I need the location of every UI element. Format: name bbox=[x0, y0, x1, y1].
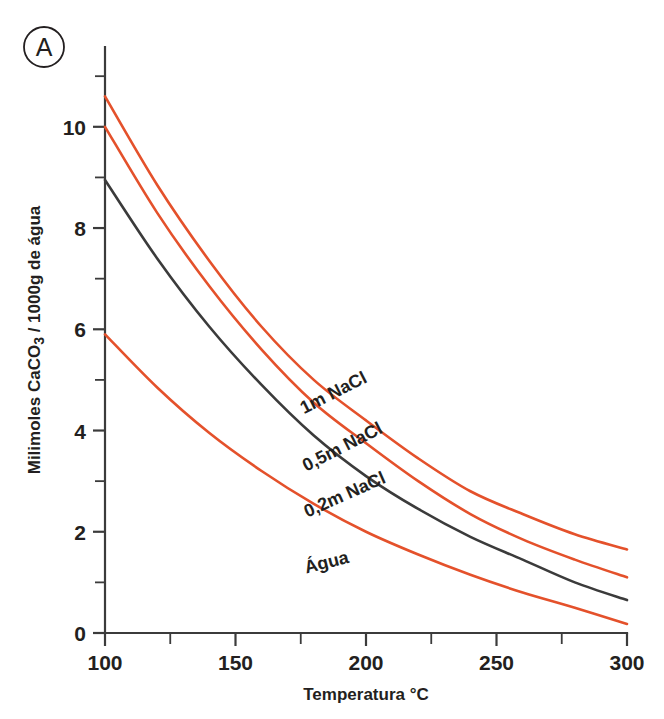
panel-letter-text: A bbox=[36, 33, 53, 61]
y-axis-title-subscript: 3 bbox=[31, 337, 47, 345]
y-axis-title-group: Milimoles CaCO3 / 1000g de água bbox=[25, 205, 47, 474]
series-label-agua-text: Água bbox=[302, 546, 352, 578]
chart-canvas: A 0246810 100150200250300 Milimoles CaCO… bbox=[0, 0, 664, 719]
series-curve-2 bbox=[105, 180, 627, 600]
series-label-02m: 0,2m NaCl bbox=[301, 468, 389, 522]
y-axis-title: Milimoles CaCO3 / 1000g de água bbox=[25, 205, 47, 474]
x-axis-title: Temperatura °C bbox=[303, 685, 429, 704]
series-curve-1 bbox=[105, 127, 627, 578]
y-tick-label-2: 2 bbox=[74, 521, 86, 544]
figure-panel-a: A 0246810 100150200250300 Milimoles CaCO… bbox=[0, 0, 664, 719]
y-axis-title-suffix: / 1000g de água bbox=[25, 205, 44, 337]
x-tick-label-200: 200 bbox=[348, 651, 383, 674]
y-tick-label-4: 4 bbox=[74, 420, 86, 443]
x-axis-tick-labels: 100150200250300 bbox=[87, 651, 644, 674]
series-label-02m-text: 0,2m NaCl bbox=[301, 468, 389, 522]
panel-letter-badge: A bbox=[24, 27, 64, 67]
axes-group bbox=[105, 47, 627, 633]
y-axis-ticks bbox=[93, 76, 105, 633]
y-tick-label-0: 0 bbox=[74, 622, 86, 645]
x-tick-label-150: 150 bbox=[218, 651, 253, 674]
y-axis-tick-labels: 0246810 bbox=[63, 116, 87, 645]
y-tick-label-8: 8 bbox=[74, 217, 86, 240]
x-tick-label-100: 100 bbox=[87, 651, 122, 674]
x-tick-label-250: 250 bbox=[479, 651, 514, 674]
y-tick-label-6: 6 bbox=[74, 318, 86, 341]
series-label-agua: Água bbox=[302, 546, 352, 578]
y-axis-title-prefix: Milimoles CaCO bbox=[25, 345, 44, 474]
series-paths-group bbox=[105, 96, 627, 623]
y-tick-label-10: 10 bbox=[63, 116, 86, 139]
x-tick-label-300: 300 bbox=[609, 651, 644, 674]
x-axis-ticks bbox=[105, 633, 627, 646]
